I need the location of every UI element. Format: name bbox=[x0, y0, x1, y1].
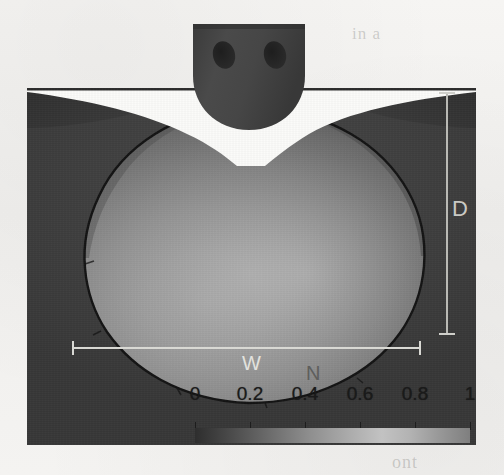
ghost-text-top-right: in a bbox=[352, 24, 381, 44]
colorbar-tick-label: 0.4 bbox=[292, 383, 318, 405]
field-variable-label: N bbox=[306, 362, 320, 385]
ghost-text-bottom-right: ont bbox=[392, 452, 418, 473]
colorbar-gradient bbox=[195, 428, 470, 443]
figure-canvas: in a cros ont bbox=[0, 0, 504, 475]
tool-top-edge bbox=[193, 24, 305, 29]
welding-tool bbox=[192, 24, 306, 132]
width-label: W bbox=[242, 352, 261, 375]
colorbar-tick-labels: 00.20.40.60.81 bbox=[150, 383, 490, 409]
colorbar-tick-label: 0.2 bbox=[237, 383, 263, 405]
colorbar-tick-label: 0 bbox=[190, 383, 201, 405]
depth-dimension-rule bbox=[446, 92, 448, 335]
tool-body bbox=[193, 24, 305, 130]
colorbar-tick-label: 1 bbox=[465, 383, 476, 405]
depth-label: D bbox=[452, 196, 468, 222]
width-dimension-rule bbox=[72, 347, 421, 349]
colorbar-tick-label: 0.6 bbox=[347, 383, 373, 405]
colorbar-tick bbox=[470, 422, 471, 430]
colorbar-tick-label: 0.8 bbox=[402, 383, 428, 405]
